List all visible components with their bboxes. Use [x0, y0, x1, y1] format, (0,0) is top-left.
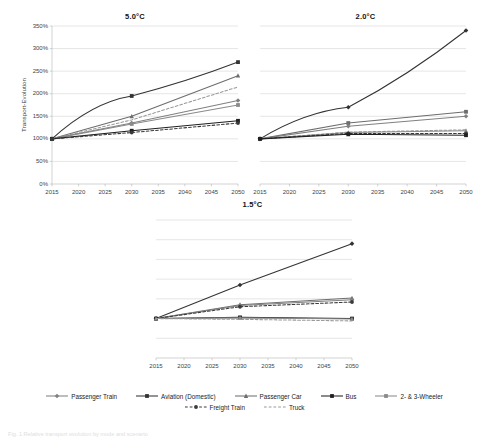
- data-point-marker: [236, 60, 240, 64]
- x-tick-label: 2050: [231, 189, 245, 195]
- legend-marker: [194, 405, 198, 409]
- data-point-marker: [350, 241, 355, 246]
- x-tick-label: 2015: [149, 363, 163, 369]
- x-tick-label: 2045: [317, 363, 331, 369]
- legend-row-primary: Passenger TrainAviation (Domestic)Passen…: [36, 392, 452, 400]
- legend-item-truck[interactable]: Truck: [263, 403, 305, 411]
- legend-label: Passenger Car: [258, 393, 302, 400]
- chart-plot-2C: 20152020202520302035204020452050: [248, 12, 483, 202]
- legend-swatch: [135, 392, 159, 400]
- series-markers: [50, 73, 240, 141]
- series-line: [156, 244, 352, 319]
- series-markers: [50, 98, 241, 141]
- data-point-marker: [236, 103, 240, 107]
- legend-marker: [385, 394, 389, 398]
- y-tick-label: 200%: [33, 90, 49, 96]
- y-tick-label: 150%: [33, 113, 49, 119]
- x-tick-label: 2045: [430, 189, 444, 195]
- data-point-marker: [464, 110, 468, 114]
- data-point-marker: [50, 137, 54, 141]
- legend-swatch: [234, 392, 258, 400]
- x-tick-label: 2030: [342, 189, 356, 195]
- chart-legend: Passenger TrainAviation (Domestic)Passen…: [0, 392, 488, 411]
- legend-swatch: [320, 392, 344, 400]
- x-tick-label: 2030: [125, 189, 139, 195]
- legend-item-bus[interactable]: Bus: [320, 392, 357, 400]
- y-tick-label: 50%: [36, 158, 49, 164]
- x-tick-label: 2030: [233, 363, 247, 369]
- data-point-marker: [238, 305, 242, 309]
- y-tick-label: 0%: [39, 181, 48, 187]
- chart-title-15C: 1.5°C: [130, 200, 375, 209]
- data-point-marker: [130, 131, 134, 135]
- series-line: [52, 62, 238, 139]
- legend-label: Truck: [287, 404, 305, 411]
- chart-panel-5C: 5.0°C 0%50%100%150%200%250%300%350%Trans…: [18, 12, 244, 202]
- series-line: [52, 105, 238, 139]
- data-point-marker: [464, 133, 468, 137]
- data-point-marker: [130, 122, 134, 126]
- chart-title-5C: 5.0°C: [26, 12, 244, 21]
- chart-panel-15C: 1.5°C 20152020202520302035204020452050: [130, 200, 375, 380]
- data-point-marker: [238, 283, 243, 288]
- legend-item-passenger-train[interactable]: Passenger Train: [45, 392, 117, 400]
- x-tick-label: 2025: [205, 363, 219, 369]
- figure-caption: Fig. 1 Relative transport evolution by m…: [8, 431, 148, 437]
- x-tick-label: 2035: [261, 363, 275, 369]
- y-tick-label: 100%: [33, 135, 49, 141]
- y-axis-title: Transport-Evolution: [20, 78, 27, 132]
- legend-swatch: [374, 392, 398, 400]
- series-line: [260, 31, 466, 139]
- series-line: [156, 300, 352, 319]
- legend-marker: [330, 394, 334, 398]
- data-point-marker: [346, 132, 350, 136]
- y-tick-label: 300%: [33, 45, 49, 51]
- y-tick-label: 350%: [33, 23, 49, 29]
- chart-plot-15C: 20152020202520302035204020452050: [130, 200, 375, 380]
- y-tick-labels: 0%50%100%150%200%250%300%350%: [33, 23, 52, 187]
- series-markers: [258, 28, 469, 141]
- data-point-marker: [346, 105, 351, 110]
- series-line: [52, 100, 238, 138]
- x-tick-label: 2040: [400, 189, 414, 195]
- series-markers: [154, 241, 355, 321]
- data-point-marker: [464, 114, 469, 119]
- x-tick-label: 2035: [152, 189, 166, 195]
- x-tick-labels: 20152020202520302035204020452050: [253, 184, 473, 195]
- legend-marker: [55, 394, 60, 399]
- data-point-marker: [130, 94, 134, 98]
- x-tick-label: 2015: [253, 189, 267, 195]
- chart-title-2C: 2.0°C: [248, 12, 483, 21]
- legend-item-passenger-car[interactable]: Passenger Car: [234, 392, 302, 400]
- x-tick-label: 2020: [177, 363, 191, 369]
- x-tick-label: 2050: [345, 363, 359, 369]
- data-point-marker: [258, 137, 262, 141]
- legend-item-2-3-wheeler[interactable]: 2- & 3-Wheeler: [374, 392, 442, 400]
- legend-swatch: [184, 403, 208, 411]
- chart-plot-5C: 0%50%100%150%200%250%300%350%Transport-E…: [18, 12, 244, 202]
- chart-panel-2C: 2.0°C 20152020202520302035204020452050: [248, 12, 483, 202]
- x-tick-label: 2050: [459, 189, 473, 195]
- gridlines: [52, 26, 238, 161]
- data-point-marker: [236, 121, 240, 125]
- legend-label: 2- & 3-Wheeler: [398, 393, 442, 400]
- y-tick-label: 250%: [33, 68, 49, 74]
- legend-item-aviation-domestic[interactable]: Aviation (Domestic): [135, 392, 215, 400]
- legend-swatch: [45, 392, 69, 400]
- data-point-marker: [236, 98, 241, 103]
- x-tick-label: 2015: [45, 189, 59, 195]
- legend-item-freight-train[interactable]: Freight Train: [184, 403, 245, 411]
- series-line: [52, 121, 238, 139]
- x-tick-labels: 20152020202520302035204020452050: [45, 184, 245, 195]
- x-tick-label: 2020: [283, 189, 297, 195]
- x-tick-label: 2020: [72, 189, 86, 195]
- x-tick-label: 2045: [205, 189, 219, 195]
- x-tick-label: 2025: [312, 189, 326, 195]
- x-tick-label: 2025: [98, 189, 112, 195]
- legend-label: Freight Train: [208, 404, 245, 411]
- x-tick-labels: 20152020202520302035204020452050: [149, 358, 359, 369]
- legend-row-secondary: Freight TrainTruck: [175, 403, 314, 411]
- x-tick-label: 2040: [178, 189, 192, 195]
- data-point-marker: [350, 300, 354, 304]
- legend-label: Bus: [344, 393, 357, 400]
